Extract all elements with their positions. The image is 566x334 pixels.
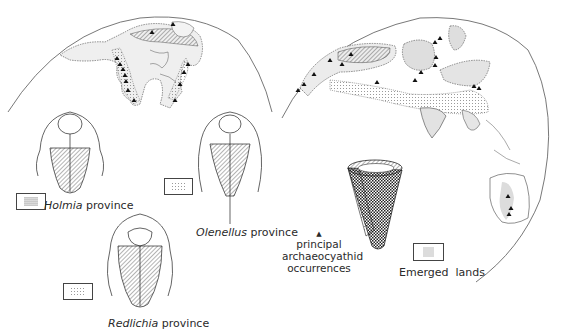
west-hemisphere-globe — [8, 17, 272, 112]
archaeocyathid-legend: ▲ principal archaeocyathid occurrences — [282, 230, 356, 274]
province-word: province — [162, 317, 209, 330]
holmia-trilobite-illustration — [36, 112, 103, 193]
holmia-legend-swatch — [16, 193, 46, 210]
emerged-word: Emerged — [399, 266, 449, 279]
redlichia-genus-name: Redlichia — [108, 317, 158, 330]
olenellus-trilobite-illustration — [198, 112, 261, 224]
holmia-province-label: Holmia province — [44, 200, 133, 212]
light-dots-pattern — [165, 179, 192, 194]
cambrian-paleogeography-figure: Holmia province Olenellus province Redli… — [0, 0, 566, 334]
legend-line-1: principal — [282, 238, 356, 250]
triangle-marker-icon: ▲ — [282, 230, 356, 238]
land-fill-pattern — [414, 244, 443, 260]
olenellus-legend-swatch — [164, 178, 193, 195]
lands-word: lands — [456, 266, 485, 279]
archaeocyathid-cone-illustration — [348, 160, 402, 249]
olenellus-genus-name: Olenellus — [196, 226, 247, 239]
medium-dots-pattern — [64, 284, 92, 299]
emerged-lands-label: Emerged lands — [399, 267, 485, 279]
redlichia-trilobite-illustration — [107, 214, 172, 307]
holmia-genus-name: Holmia — [44, 199, 83, 212]
redlichia-legend-swatch — [63, 283, 93, 300]
emerged-lands-legend-swatch — [413, 243, 444, 261]
dense-dots-pattern — [17, 194, 45, 209]
province-word: province — [86, 199, 133, 212]
legend-line-3: occurrences — [282, 262, 356, 274]
legend-line-2: archaeocyathid — [282, 250, 356, 262]
redlichia-province-label: Redlichia province — [108, 318, 209, 330]
